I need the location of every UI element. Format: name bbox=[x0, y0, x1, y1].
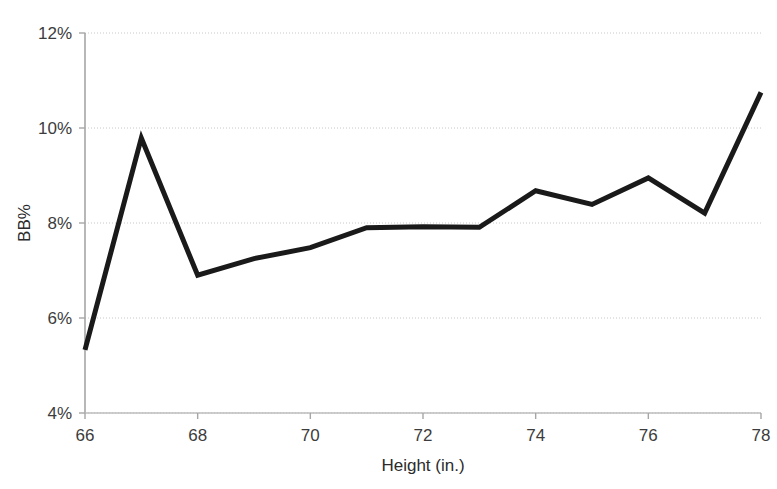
x-tick-label-70: 70 bbox=[301, 426, 320, 445]
line-chart: 4%6%8%10%12% 66687072747678 BB% Height (… bbox=[0, 0, 777, 489]
x-tick-labels: 66687072747678 bbox=[76, 426, 771, 445]
y-axis-title: BB% bbox=[15, 204, 34, 242]
y-tick-label-8: 8% bbox=[47, 214, 72, 233]
y-tick-label-4: 4% bbox=[47, 404, 72, 423]
x-tick-label-66: 66 bbox=[76, 426, 95, 445]
y-tick-labels: 4%6%8%10%12% bbox=[38, 24, 72, 423]
x-tick-label-72: 72 bbox=[414, 426, 433, 445]
x-axis-title: Height (in.) bbox=[381, 456, 464, 475]
y-tick-label-10: 10% bbox=[38, 119, 72, 138]
chart-page: 4%6%8%10%12% 66687072747678 BB% Height (… bbox=[0, 0, 777, 489]
plot-area-background bbox=[85, 33, 761, 413]
x-tick-label-74: 74 bbox=[526, 426, 545, 445]
x-tick-label-76: 76 bbox=[639, 426, 658, 445]
y-tick-marks bbox=[79, 33, 85, 413]
x-tick-label-78: 78 bbox=[752, 426, 771, 445]
y-tick-label-6: 6% bbox=[47, 309, 72, 328]
y-tick-label-12: 12% bbox=[38, 24, 72, 43]
x-tick-marks bbox=[85, 413, 761, 419]
x-tick-label-68: 68 bbox=[188, 426, 207, 445]
